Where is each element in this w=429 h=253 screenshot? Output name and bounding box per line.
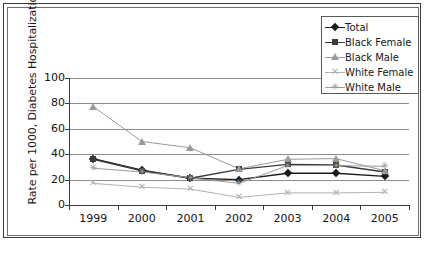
- data-point: [138, 138, 146, 145]
- gridline: [69, 129, 409, 130]
- data-point: ✳: [88, 164, 98, 172]
- data-point: ✳: [331, 162, 341, 170]
- legend-item-total[interactable]: Total: [325, 20, 416, 35]
- legend-item-label: Total: [345, 21, 368, 35]
- data-point: [235, 165, 243, 172]
- x-tick-mark: [215, 205, 216, 210]
- y-tick-label: 80: [25, 96, 65, 109]
- data-point: ✕: [234, 193, 244, 201]
- y-axis-line: [69, 78, 70, 206]
- legend-item-black-male[interactable]: Black Male: [325, 50, 416, 65]
- y-tick-label: 40: [25, 147, 65, 160]
- y-tick-label: 20: [25, 173, 65, 186]
- legend-item-label: White Female: [345, 66, 413, 80]
- square-marker-icon: [325, 36, 345, 50]
- data-point: [89, 103, 97, 110]
- chart-area: Rate per 1000, Diabetes Hospitalizations…: [8, 8, 418, 235]
- y-tick-label: 100: [25, 71, 65, 84]
- data-point: ✕: [331, 189, 341, 197]
- x-axis-line: [69, 205, 410, 206]
- data-point: [186, 144, 194, 151]
- plot-area: 020406080100 199920002001200220032004200…: [69, 78, 409, 205]
- data-point: ✳: [283, 162, 293, 170]
- diamond-marker-icon: [325, 21, 345, 35]
- x-tick-mark: [312, 205, 313, 210]
- legend-item-white-male[interactable]: ✳White Male: [325, 80, 416, 95]
- x-tick-mark: [409, 205, 410, 210]
- chart-legend: TotalBlack FemaleBlack Male✕White Female…: [321, 16, 419, 94]
- legend-item-label: Black Female: [345, 36, 411, 50]
- star-marker-icon: ✳: [325, 81, 345, 95]
- gridline: [69, 154, 409, 155]
- figure-caption: [8, 240, 418, 252]
- data-point: ✳: [380, 162, 390, 170]
- legend-item-white-female[interactable]: ✕White Female: [325, 65, 416, 80]
- y-tick-label: 0: [25, 198, 65, 211]
- data-point: ✕: [137, 183, 147, 191]
- data-point: ✳: [137, 168, 147, 176]
- x-tick-mark: [69, 205, 70, 210]
- x-tick-mark: [360, 205, 361, 210]
- data-point: ✳: [234, 179, 244, 187]
- gridline: [69, 103, 409, 104]
- legend-item-label: White Male: [345, 81, 401, 95]
- legend-item-black-female[interactable]: Black Female: [325, 35, 416, 50]
- triangle-marker-icon: [325, 51, 345, 65]
- data-point: ✕: [185, 185, 195, 193]
- x-marker-icon: ✕: [325, 66, 345, 80]
- data-point: ✕: [88, 179, 98, 187]
- x-tick-mark: [263, 205, 264, 210]
- x-tick-mark: [166, 205, 167, 210]
- x-tick-label: 2005: [355, 212, 415, 225]
- x-tick-mark: [118, 205, 119, 210]
- y-tick-label: 60: [25, 122, 65, 135]
- data-point: ✕: [380, 188, 390, 196]
- figure: Rate per 1000, Diabetes Hospitalizations…: [0, 0, 429, 253]
- legend-item-label: Black Male: [345, 51, 399, 65]
- data-point: ✕: [283, 189, 293, 197]
- data-point: ✳: [185, 174, 195, 182]
